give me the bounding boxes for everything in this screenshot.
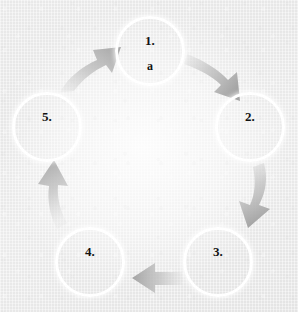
arrow-2-to-3 bbox=[239, 163, 270, 228]
cycle-node-2[interactable]: 2. bbox=[215, 92, 285, 162]
cycle-node-3[interactable]: 3. bbox=[183, 227, 253, 297]
arrow-4-to-5 bbox=[38, 160, 68, 229]
cycle-node-4-number: 4. bbox=[58, 245, 122, 258]
arrow-3-to-4 bbox=[132, 263, 182, 293]
arrow-5-to-1 bbox=[60, 47, 121, 92]
cycle-node-5[interactable]: 5. bbox=[12, 92, 82, 162]
cycle-node-4[interactable]: 4. bbox=[55, 227, 125, 297]
arrow-1-to-2 bbox=[184, 54, 240, 101]
cycle-diagram-canvas: 1. a 2. 3. 4. 5. bbox=[0, 0, 298, 312]
cycle-node-3-number: 3. bbox=[186, 245, 250, 258]
cycle-node-5-number: 5. bbox=[15, 110, 79, 123]
cycle-node-1-number: 1. bbox=[118, 34, 182, 47]
cycle-node-1-sublabel: a bbox=[118, 60, 182, 72]
cycle-node-2-number: 2. bbox=[218, 110, 282, 123]
cycle-node-1[interactable]: 1. a bbox=[115, 16, 185, 86]
